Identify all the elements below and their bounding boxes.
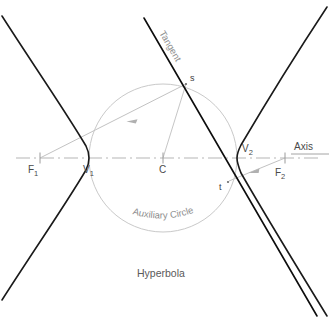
label-hyperbola-name: Hyperbola — [137, 267, 185, 279]
figure-canvas: F1 V1 C V2 F2 Axis s — [0, 0, 330, 320]
label-center: C — [159, 164, 166, 175]
label-vertex2: V2 — [242, 143, 253, 157]
label-point-s: s — [190, 73, 195, 83]
svg-text:F1: F1 — [28, 164, 38, 178]
label-point-t: t — [219, 182, 222, 192]
point-marker-s — [185, 83, 187, 85]
label-focus2: F2 — [275, 167, 285, 181]
label-vertex2-subscript: 2 — [249, 148, 253, 157]
svg-text:F2: F2 — [275, 167, 285, 181]
label-vertex1: V1 — [83, 164, 94, 178]
ray-focus2-arrowhead-icon — [249, 168, 260, 173]
point-marker-t — [227, 181, 229, 183]
ray-focus1-to-s — [40, 84, 186, 158]
svg-text:V2: V2 — [242, 143, 253, 157]
hyperbola-figure: F1 V1 C V2 F2 Axis s — [0, 0, 330, 320]
hyperbola-right-branch — [237, 7, 327, 316]
label-auxiliary-circle: Auxiliary Circle — [132, 204, 195, 221]
ray-focus1-arrowhead-icon — [127, 119, 138, 123]
label-axis: Axis — [294, 141, 313, 152]
ray-center-to-s — [163, 84, 186, 158]
label-vertex1-subscript: 1 — [90, 169, 94, 178]
label-focus1-subscript: 1 — [34, 169, 38, 178]
svg-text:V1: V1 — [83, 164, 94, 178]
label-focus2-subscript: 2 — [281, 172, 285, 181]
label-axis-group: Axis — [291, 141, 329, 154]
label-focus1: F1 — [28, 164, 38, 178]
label-auxiliary-circle-text: Auxiliary Circle — [132, 204, 195, 221]
label-tangent: Tangent — [157, 28, 184, 63]
